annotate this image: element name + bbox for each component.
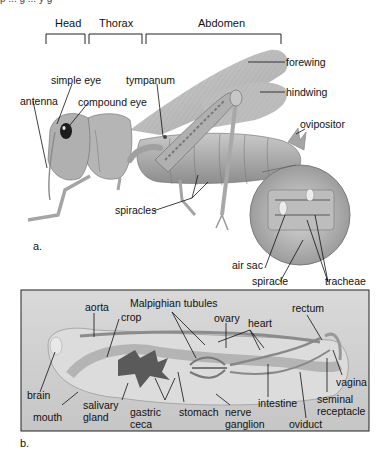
- label-aorta: aorta: [85, 302, 109, 313]
- section-head: Head: [55, 17, 81, 29]
- label-oviduct: oviduct: [289, 419, 322, 430]
- label-gastric-ceca-line2: ceca: [130, 419, 152, 430]
- label-air-sac: air sac: [232, 260, 263, 271]
- label-hindwing: hindwing: [286, 87, 327, 98]
- panel-b-letter: b.: [20, 437, 29, 449]
- label-intestine: intestine: [258, 398, 297, 409]
- label-brain: brain: [27, 390, 50, 401]
- label-rectum: rectum: [292, 303, 324, 314]
- label-heart: heart: [248, 318, 272, 329]
- label-forewing: forewing: [286, 57, 326, 68]
- label-compound-eye: compound eye: [78, 97, 147, 108]
- label-seminal-receptacle-line2: receptacle: [317, 406, 365, 417]
- label-nerve-ganglion-line2: ganglion: [225, 419, 265, 430]
- label-tracheae: tracheae: [325, 276, 366, 287]
- label-stomach: stomach: [179, 407, 219, 418]
- section-brackets: [46, 34, 281, 44]
- label-spiracles: spiracles: [115, 205, 156, 216]
- label-ovipositor: ovipositor: [300, 119, 345, 130]
- cut-off-caption: p ... g ... y g: [0, 0, 52, 4]
- label-crop: crop: [121, 312, 141, 323]
- label-antenna: antenna: [20, 96, 58, 107]
- section-thorax: Thorax: [99, 17, 133, 29]
- spiracle-magnified-inset: [250, 165, 350, 265]
- label-vagina: vagina: [336, 377, 367, 388]
- label-mouth: mouth: [33, 412, 62, 423]
- label-salivary-gland-line1: salivary: [83, 400, 119, 411]
- label-simple-eye: simple eye: [51, 75, 101, 86]
- label-seminal-receptacle-line1: seminal: [317, 394, 353, 405]
- label-malpighian-tubules: Malpighian tubules: [130, 298, 218, 309]
- panel-a-letter: a.: [33, 240, 42, 252]
- label-salivary-gland-line2: gland: [83, 412, 109, 423]
- label-nerve-ganglion-line1: nerve: [225, 407, 251, 418]
- label-tympanum: tympanum: [126, 75, 175, 86]
- label-ovary: ovary: [214, 313, 240, 324]
- label-gastric-ceca-line1: gastric: [130, 407, 161, 418]
- label-spiracle: spiracle: [252, 276, 288, 287]
- section-abdomen: Abdomen: [198, 17, 245, 29]
